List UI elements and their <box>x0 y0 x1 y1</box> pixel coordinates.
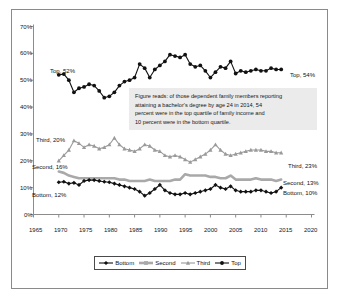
annotation-line-3: percent were in the top quartile of fami… <box>135 109 312 118</box>
legend-item-bottom[interactable]: Bottom <box>99 259 134 267</box>
y-tick-label-40: 40% <box>20 104 32 110</box>
series-label-third-left: Third, 20% <box>36 137 65 143</box>
legend-item-top[interactable]: Top <box>215 259 241 267</box>
y-tick-label-30: 30% <box>20 131 32 137</box>
legend-marker-top-icon <box>215 259 229 267</box>
legend-label-third: Third <box>197 260 211 266</box>
figure-reads-annotation: Figure reads: of those dependent family … <box>129 88 317 130</box>
annotation-line-4: 10 percent were in the bottom quartile. <box>135 118 312 127</box>
y-tick-label-60: 60% <box>20 50 32 56</box>
legend-item-second[interactable]: Second <box>139 259 175 267</box>
chart-legend: Bottom Second Third Top <box>94 256 246 270</box>
y-tick-label-20: 20% <box>20 158 32 164</box>
series-label-top-left: Top, 52% <box>50 68 75 74</box>
series-second <box>59 172 281 181</box>
y-tick-label-10: 10% <box>20 185 32 191</box>
x-tick-label-1995: 1995 <box>179 227 192 233</box>
series-third <box>57 136 284 164</box>
annotation-line-2: attaining a bachelor's degree by age 24 … <box>135 101 312 110</box>
series-label-bottom-right: Bottom, 10% <box>283 190 317 196</box>
annotation-line-1: Figure reads: of those dependent family … <box>135 92 312 101</box>
x-tick-label-2005: 2005 <box>229 227 242 233</box>
x-tick-label-1965: 1965 <box>29 227 42 233</box>
legend-label-top: Top <box>231 260 241 266</box>
x-tick-label-2010: 2010 <box>254 227 267 233</box>
line-chart-plot <box>0 0 339 299</box>
series-label-second-left: Second, 16% <box>32 164 68 170</box>
chart-figure: 70% 60% 50% 40% 30% 20% 10% 0% 1965 1970… <box>0 0 339 299</box>
x-tick-label-1970: 1970 <box>54 227 67 233</box>
x-tick-label-2015: 2015 <box>279 227 292 233</box>
legend-label-bottom: Bottom <box>115 260 134 266</box>
legend-marker-second-icon <box>139 259 153 267</box>
series-label-second-right: Second, 13% <box>283 180 319 186</box>
x-tick-label-1975: 1975 <box>79 227 92 233</box>
series-label-third-right: Third, 23% <box>288 163 317 169</box>
x-tick-label-2020: 2020 <box>304 227 317 233</box>
x-tick-label-1990: 1990 <box>154 227 167 233</box>
y-tick-label-50: 50% <box>20 77 32 83</box>
y-tick-label-0: 0% <box>24 212 33 218</box>
x-tick-label-1985: 1985 <box>129 227 142 233</box>
y-tick-label-70: 70% <box>20 24 32 30</box>
x-tick-label-2000: 2000 <box>204 227 217 233</box>
legend-item-third[interactable]: Third <box>181 259 211 267</box>
x-tick-label-1980: 1980 <box>104 227 117 233</box>
legend-marker-third-icon <box>181 259 195 267</box>
series-label-top-right: Top, 54% <box>290 72 315 78</box>
legend-label-second: Second <box>155 260 175 266</box>
legend-marker-bottom-icon <box>99 259 113 267</box>
series-label-bottom-left: Bottom, 12% <box>32 192 66 198</box>
